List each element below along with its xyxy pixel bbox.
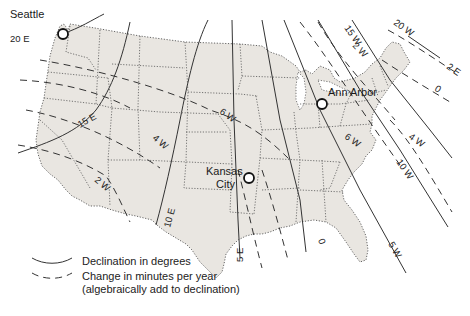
city-label-ann-arbor: Ann Arbor (328, 86, 377, 98)
city-label-kansas-city-1: Kansas (206, 165, 243, 177)
city-marker-seattle (58, 29, 68, 39)
label-20W: 20 W (392, 17, 416, 39)
isogonic-20W (408, 36, 440, 58)
legend: Declination in degrees Change in minutes… (30, 255, 240, 300)
legend-change-line2: (algebraically add to declination) (82, 283, 240, 295)
label-0: 0 (316, 237, 328, 246)
city-marker-kansas-city (244, 173, 254, 183)
solid-line-icon (30, 255, 74, 267)
city-marker-ann-arbor (317, 99, 327, 109)
legend-change-label: Change in minutes per year (algebraicall… (82, 270, 240, 296)
city-label-seattle: Seattle (10, 8, 44, 20)
legend-declination-label: Declination in degrees (82, 255, 191, 268)
legend-declination: Declination in degrees (30, 255, 240, 270)
city-label-kansas-city-2: City (216, 178, 235, 190)
label-change-4W-e: 4 W (407, 131, 427, 150)
label-20E: 20 E (10, 33, 30, 44)
legend-change: Change in minutes per year (algebraicall… (30, 270, 240, 300)
label-5W: 5 W (386, 240, 404, 260)
dashed-line-icon (30, 270, 74, 282)
label-change-2E: 2 E (445, 61, 463, 78)
us-landmass (36, 24, 410, 278)
label-10W: 10 W (394, 157, 416, 181)
legend-change-line1: Change in minutes per year (82, 270, 217, 282)
